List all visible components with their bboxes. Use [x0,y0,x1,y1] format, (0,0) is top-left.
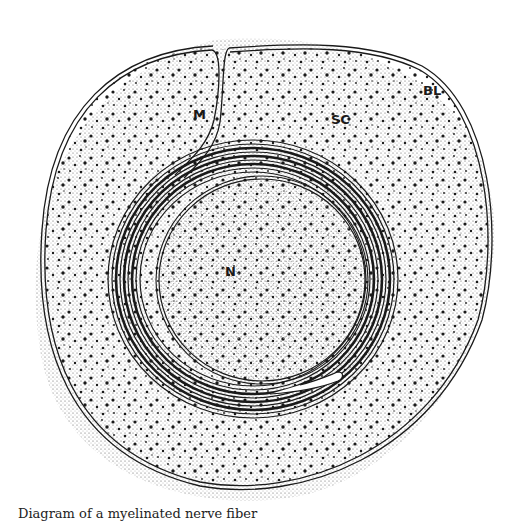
figure-caption: Diagram of a myelinated nerve fiber [18,506,257,521]
myelin-diagram [0,0,519,522]
label-axon: N [225,265,236,278]
label-schwann-cell: SC [331,113,350,126]
label-basal-lamina: BL [423,84,441,97]
label-mesaxon: M [193,108,206,121]
